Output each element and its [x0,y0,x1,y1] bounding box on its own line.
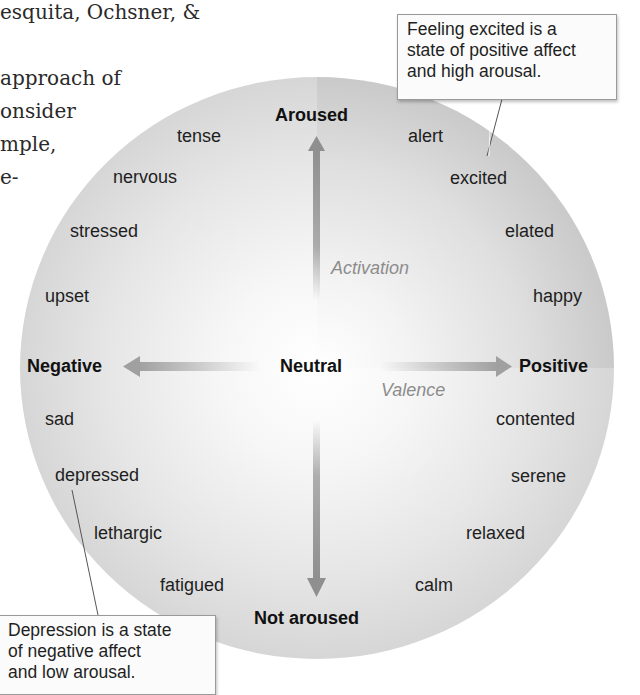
callout-line: Depression is a state [8,620,206,641]
callout-line: and low arousal. [8,662,206,683]
axis-label-aroused: Aroused [275,106,348,124]
callout-depressed: Depression is a state of negative affect… [0,615,216,695]
callout-line: and high arousal. [407,61,607,82]
emotion-word: relaxed [466,524,525,542]
callout-line: state of positive affect [407,40,607,61]
emotion-word: serene [511,467,566,485]
axis-name-valence: Valence [381,381,445,399]
emotion-word: fatigued [160,576,224,594]
arrow-down-icon [307,420,326,597]
emotion-word: elated [505,222,554,240]
axis-name-activation: Activation [331,259,409,277]
axis-label-negative: Negative [27,357,102,375]
emotion-word: tense [177,127,221,145]
center-label-neutral: Neutral [280,357,342,375]
emotion-word: lethargic [94,524,162,542]
callout-line: of negative affect [8,641,206,662]
emotion-word: nervous [113,168,177,186]
emotion-word: sad [45,410,74,428]
emotion-word: excited [450,169,507,187]
emotion-word: happy [533,287,582,305]
arrow-up-icon [308,136,325,300]
callout-excited: Feeling excited is a state of positive a… [397,14,617,100]
callout-leader-line [72,490,98,615]
callout-line: Feeling excited is a [407,19,607,40]
emotion-word: alert [408,127,443,145]
axis-label-not-aroused: Not aroused [254,609,359,627]
emotion-word: upset [45,287,89,305]
emotion-word: calm [415,576,453,594]
arrow-right-icon [380,356,512,377]
emotion-word: depressed [55,466,139,484]
axis-label-positive: Positive [519,357,588,375]
emotion-word: contented [496,410,575,428]
emotion-word: stressed [70,222,138,240]
arrow-left-icon [123,356,260,377]
